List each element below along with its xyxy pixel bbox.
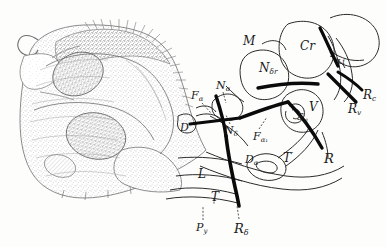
label-tp: T′	[283, 151, 293, 164]
outline-da-inner	[256, 161, 277, 173]
label-subscript: δ	[244, 228, 249, 237]
label-cr: Cr	[300, 40, 315, 52]
label-rv: Rv	[348, 103, 361, 116]
label-d: D	[180, 122, 189, 133]
label-v: V	[309, 101, 318, 113]
label-subscript: α₁	[261, 136, 268, 144]
tissue-mass-left	[18, 19, 206, 200]
label-rd: Rδ	[234, 222, 249, 237]
label-m: M	[243, 35, 255, 47]
outline-m-region	[262, 41, 286, 50]
outline-t-band	[170, 188, 236, 194]
tract-main-lower	[226, 136, 239, 206]
label-fa1: Fα₁	[253, 131, 268, 144]
label-subscript: g	[304, 116, 308, 123]
outline-t-band-2	[166, 197, 238, 203]
label-li: Li	[337, 58, 345, 66]
label-rc: Rc	[363, 89, 376, 102]
label-subscript: α	[226, 85, 231, 93]
label-l: L	[198, 168, 206, 180]
figure-canvas	[0, 0, 387, 247]
label-sg: Sg	[297, 112, 308, 123]
label-subscript: v	[357, 108, 361, 117]
label-subscript: δr	[270, 67, 278, 76]
anatomical-figure: MCrNδrLiRcRvFαNαDNδFα₁VSgDαT′RLTPyRδ	[0, 0, 387, 247]
label-fa: Fα	[191, 90, 203, 103]
leader-rd	[237, 206, 239, 219]
outline-fa	[196, 106, 216, 112]
outline-right-field-lower-2	[200, 166, 342, 190]
label-subscript: α	[254, 159, 259, 167]
leader-fa	[202, 103, 211, 113]
leader-fa1	[259, 117, 267, 129]
label-t: T	[211, 191, 219, 203]
label-prime: ′	[291, 150, 293, 161]
label-nd: Nδ	[224, 125, 238, 138]
label-na: Nα	[216, 80, 230, 93]
tract-upper-band	[258, 83, 318, 88]
label-r: R	[324, 152, 334, 165]
label-subscript: α	[199, 95, 204, 103]
label-subscript: c	[372, 94, 376, 103]
label-subscript: δ	[234, 130, 238, 138]
label-ndr: Nδr	[259, 62, 278, 75]
label-subscript: y	[203, 227, 207, 235]
label-py: Py	[196, 222, 207, 235]
label-da: Dα	[245, 154, 258, 167]
